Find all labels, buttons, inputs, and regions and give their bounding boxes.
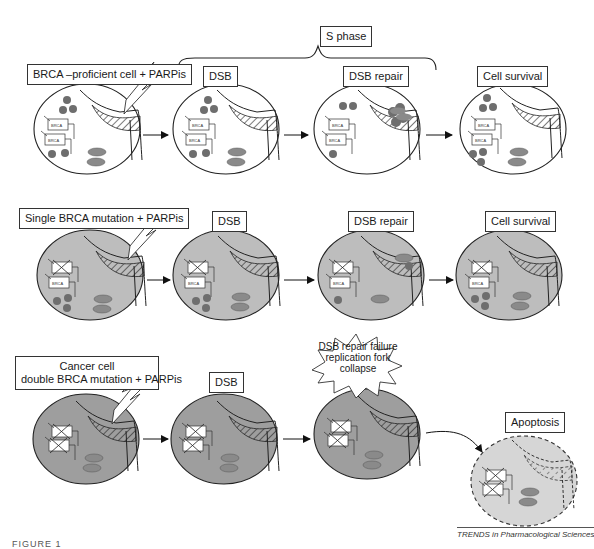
row1-title: BRCA –proficient cell + PARPis — [27, 64, 192, 85]
svg-text:BRCA: BRCA — [52, 281, 63, 286]
row2-stage-repair: DSB repair — [348, 211, 414, 232]
svg-text:BRCA: BRCA — [478, 123, 489, 128]
row3-title-line2: double BRCA mutation + PARPis — [21, 373, 153, 386]
failure-line1: DSB repair failure — [303, 341, 413, 352]
svg-text:BRCA: BRCA — [332, 123, 343, 128]
svg-text:BRCA: BRCA — [188, 281, 199, 286]
row3-stage-dsb: DSB — [209, 372, 244, 393]
row1-stage-dsb: DSB — [203, 66, 238, 87]
svg-text:BRCA: BRCA — [48, 138, 59, 143]
row1-stage-repair: DSB repair — [343, 66, 409, 87]
svg-text:BRCA: BRCA — [329, 138, 340, 143]
svg-text:BRCA: BRCA — [51, 123, 62, 128]
svg-text:BRCA: BRCA — [475, 138, 486, 143]
row3-outcome-apoptosis: Apoptosis — [505, 412, 565, 433]
failure-line3: collapse — [303, 363, 413, 374]
figure-caption: FIGURE 1 — [12, 539, 62, 549]
failure-line2: replication fork — [303, 352, 413, 363]
svg-text:BRCA: BRCA — [189, 138, 200, 143]
row2-stage-survival: Cell survival — [485, 211, 556, 232]
row3-title: Cancer cell double BRCA mutation + PARPi… — [15, 356, 159, 390]
svg-text:BRCA: BRCA — [472, 281, 483, 286]
failure-text: DSB repair failure replication fork coll… — [303, 341, 413, 374]
row1-stage-survival: Cell survival — [477, 66, 548, 87]
row3-title-line1: Cancer cell — [21, 360, 153, 373]
s-phase-label: S phase — [320, 26, 372, 47]
journal-credit: TRENDS in Pharmacological Sciences — [457, 527, 594, 539]
row2-stage-dsb: DSB — [212, 211, 247, 232]
svg-text:BRCA: BRCA — [333, 281, 344, 286]
svg-text:BRCA: BRCA — [192, 123, 203, 128]
row2-title: Single BRCA mutation + PARPis — [19, 208, 189, 229]
